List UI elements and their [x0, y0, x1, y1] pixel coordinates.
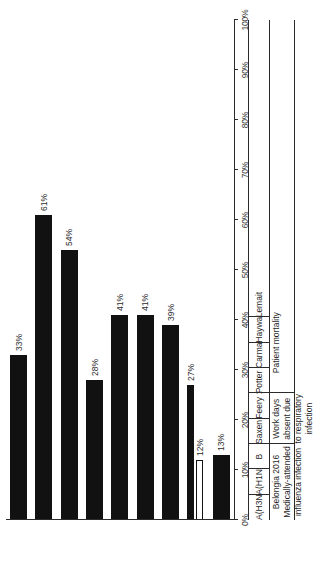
bar[interactable] — [137, 315, 154, 520]
category-label: Saxen 1999 — [249, 419, 269, 444]
category-separator — [248, 468, 269, 469]
group-study-label: Belongia 2016 — [271, 444, 282, 520]
category-label: Feery 1976 — [249, 393, 269, 418]
category-label: B — [249, 444, 269, 469]
bar-value-label: 27% — [186, 364, 196, 381]
category-separator — [248, 443, 269, 444]
axis-tick — [234, 519, 238, 520]
group-outcome-label: Medically-attended influenza infection — [282, 444, 298, 520]
bar-value-label: 33% — [14, 334, 24, 351]
bar[interactable] — [162, 325, 179, 520]
bar[interactable] — [213, 455, 230, 520]
category-separator — [248, 316, 269, 317]
bar[interactable] — [86, 380, 103, 520]
bar[interactable] — [196, 460, 203, 520]
bar[interactable] — [111, 315, 128, 520]
group-separator — [270, 443, 294, 444]
category-label: Hayward 2006 — [249, 317, 269, 342]
axis-tick — [234, 19, 238, 20]
category-separator — [248, 342, 269, 343]
group-outcome-label: Work days absent due to respiratory infe… — [271, 393, 298, 444]
bar[interactable] — [10, 355, 27, 520]
bar-row: 61% — [31, 20, 56, 520]
group-label: Work days absent due to respiratory infe… — [270, 393, 294, 444]
axis-tick — [234, 169, 238, 170]
bar-value-label: 13% — [216, 434, 226, 451]
category-baseline-axis — [6, 519, 234, 520]
chart-canvas: 33%61%54%28%41%41%39%27%12%13% 100%90%80… — [0, 0, 298, 562]
axis-tick — [234, 69, 238, 70]
group-separator — [270, 392, 294, 393]
axis-tick — [234, 469, 238, 470]
bar-row: 41% — [107, 20, 132, 520]
category-label: Potter 1997 — [249, 368, 269, 393]
category-label-table: A(H3N2)A(H1N1)BSaxen 1999Feery 1976Potte… — [248, 20, 298, 520]
group-label: Patient mortality — [270, 292, 294, 393]
bar-row: 27%12% — [183, 20, 208, 520]
category-separator — [248, 418, 269, 419]
category-separator — [248, 367, 269, 368]
bar-row: 39% — [158, 20, 183, 520]
axis-tick — [234, 219, 238, 220]
bar[interactable] — [35, 215, 52, 520]
category-separator — [248, 494, 269, 495]
group-label: Belongia 2016Medically-attended influenz… — [270, 444, 294, 520]
bar-value-label: 28% — [90, 359, 100, 376]
bar-value-label: 12% — [195, 439, 205, 456]
category-label: A(H1N1) — [249, 469, 269, 494]
category-label: Carman 2000 — [249, 343, 269, 368]
bar-row: 13% — [209, 20, 234, 520]
category-label: A(H3N2) — [249, 495, 269, 520]
bar[interactable] — [61, 250, 78, 520]
group-outcome-label: Patient mortality — [271, 292, 282, 393]
axis-tick — [234, 319, 238, 320]
bar-row: 41% — [133, 20, 158, 520]
bar-value-label: 54% — [64, 229, 74, 246]
bar-row: 33% — [6, 20, 31, 520]
bar-row: 28% — [82, 20, 107, 520]
axis-tick — [234, 419, 238, 420]
category-label: Lemaitre 2009 — [249, 292, 269, 317]
value-axis: 100%90%80%70%60%50%40%30%20%10%0% — [234, 20, 235, 520]
axis-tick — [234, 369, 238, 370]
axis-tick — [234, 119, 238, 120]
bar-value-label: 41% — [140, 294, 150, 311]
bar-value-label: 61% — [39, 194, 49, 211]
bar[interactable] — [187, 385, 194, 520]
rotated-bar-chart: 33%61%54%28%41%41%39%27%12%13% 100%90%80… — [0, 0, 298, 562]
plot-area: 33%61%54%28%41%41%39%27%12%13% — [6, 20, 234, 520]
bar-value-label: 39% — [166, 304, 176, 321]
category-separator — [248, 392, 269, 393]
bar-value-label: 41% — [115, 294, 125, 311]
axis-tick — [234, 269, 238, 270]
bar-row: 54% — [57, 20, 82, 520]
